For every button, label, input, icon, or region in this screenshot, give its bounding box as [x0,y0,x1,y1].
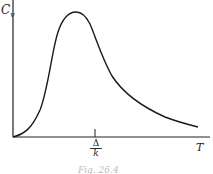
figure-caption: Fig. 26.4 [78,165,119,174]
x-axis-label: T [196,141,203,154]
cv-curve [13,12,198,137]
plot-canvas [0,0,213,174]
tick-label-delta-over-k: Δ k [90,139,102,158]
y-axis-label: Cv [1,3,15,19]
tick-denominator: k [93,148,98,158]
